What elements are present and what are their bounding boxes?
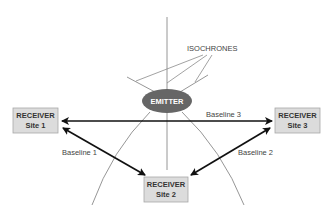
isochrone-right-upper-line [180,75,208,92]
tdoa-diagram: ISOCHRONES EMITTER Baseline 3 Baseline 1… [0,0,330,219]
receiver-site-1-name: Site 1 [25,121,45,130]
emitter-label: EMITTER [151,97,184,106]
baseline-1-label: Baseline 1 [62,148,97,157]
receiver-site-3-name: Site 3 [287,121,307,130]
isochrones-callout-lines [136,55,212,83]
receiver-site-3: RECEIVER Site 3 [275,108,320,133]
receiver-site-1-title: RECEIVER [16,111,55,120]
receiver-site-2: RECEIVER Site 2 [144,177,188,202]
receiver-site-3-title: RECEIVER [278,111,317,120]
baseline-3-label: Baseline 3 [206,110,241,119]
emitter: EMITTER [142,89,192,113]
isochrones-label: ISOCHRONES [187,44,237,53]
receiver-site-2-name: Site 2 [156,190,176,199]
isochrone-right-curve [182,112,244,205]
isochrone-left-curve [92,112,150,205]
receiver-site-2-title: RECEIVER [147,180,186,189]
baseline-2-label: Baseline 2 [238,148,273,157]
receiver-site-1: RECEIVER Site 1 [13,108,58,133]
